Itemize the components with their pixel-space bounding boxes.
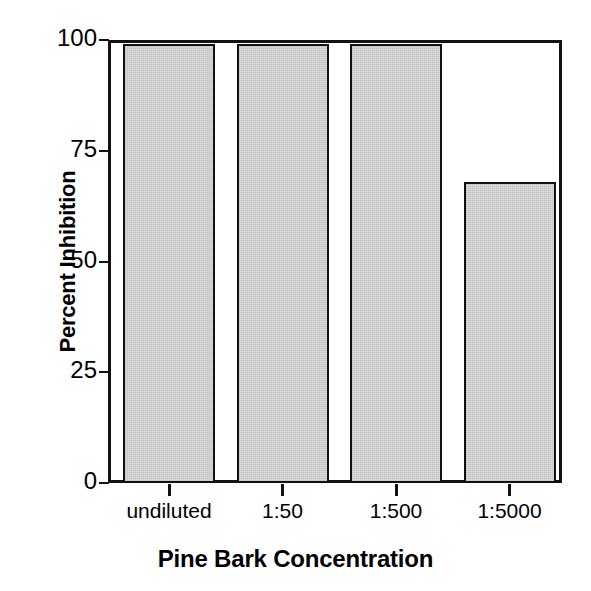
y-axis-tick-mark bbox=[99, 371, 109, 373]
y-axis-tick-mark bbox=[99, 39, 109, 41]
y-axis-tick-label: 75 bbox=[45, 135, 97, 163]
plot-area bbox=[108, 40, 562, 483]
y-axis-tick-mark bbox=[99, 261, 109, 263]
y-axis-tick-mark bbox=[99, 150, 109, 152]
x-axis-title: Pine Bark Concentration bbox=[0, 545, 591, 573]
x-axis-tick-mark bbox=[281, 484, 284, 496]
bar-chart-figure: Percent Inhibition 1007550250 undiluted1… bbox=[0, 0, 591, 591]
y-axis-tick-label: 0 bbox=[45, 467, 97, 495]
y-axis-tick-mark bbox=[99, 482, 109, 484]
x-axis-tick-mark bbox=[168, 484, 171, 496]
y-axis-tick-label: 50 bbox=[45, 246, 97, 274]
y-axis-tick-label: 25 bbox=[45, 356, 97, 384]
x-axis-tick-mark bbox=[395, 484, 398, 496]
y-axis-tick-label: 100 bbox=[45, 24, 97, 52]
x-axis-tick-mark bbox=[508, 484, 511, 496]
x-axis-tick-label: 1:5000 bbox=[430, 499, 590, 523]
